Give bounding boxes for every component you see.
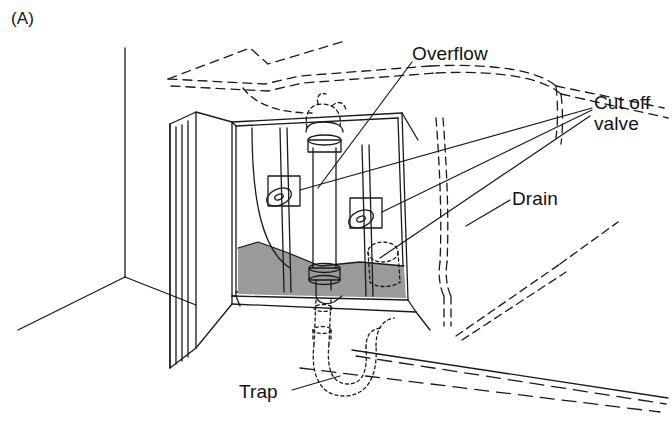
label-cut-off-valve: Cut offvalve bbox=[594, 92, 650, 134]
room-corner bbox=[18, 48, 196, 330]
leader-cutoff-drainside bbox=[380, 116, 590, 258]
cabinet-door bbox=[170, 112, 232, 368]
label-drain: Drain bbox=[512, 188, 558, 209]
cabinet-floor-shading bbox=[238, 242, 406, 298]
sink-basin-hidden-outline bbox=[243, 88, 312, 113]
trap bbox=[313, 300, 394, 396]
label-cut-off-valve-line2: valve bbox=[594, 113, 639, 134]
label-cut-off-valve-line1: Cut off bbox=[594, 92, 650, 113]
floor-baseboard-dashes bbox=[300, 356, 666, 412]
leader-drain bbox=[466, 200, 510, 226]
drain-hidden-run bbox=[436, 118, 618, 340]
leader-trap bbox=[292, 376, 340, 390]
label-overflow: Overflow bbox=[412, 43, 488, 64]
plumbing-diagram-illustration bbox=[0, 0, 672, 432]
label-trap: Trap bbox=[239, 381, 278, 402]
panel-tag: (A) bbox=[11, 8, 34, 29]
floor-baseboard-right bbox=[352, 350, 668, 398]
leader-cutoff-right bbox=[382, 110, 592, 212]
figure-container: (A) Overflow Cut offvalve Drain Trap bbox=[0, 0, 672, 432]
